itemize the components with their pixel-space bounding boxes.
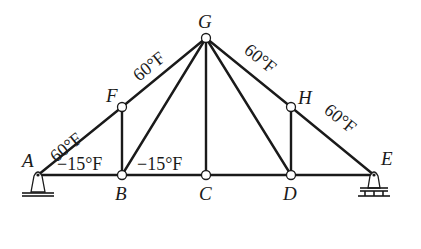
temp-HE: 60°F xyxy=(320,100,360,138)
truss-canvas: A B C D E F G H 60°F 60°F 60°F 60°F −15°… xyxy=(0,0,421,249)
temp-AB: −15°F xyxy=(57,154,102,174)
label-A: A xyxy=(20,150,34,171)
joint-B xyxy=(118,171,127,180)
label-D: D xyxy=(282,183,297,204)
temperature-labels: 60°F 60°F 60°F 60°F −15°F −15°F xyxy=(46,40,361,174)
label-C: C xyxy=(199,183,212,204)
label-B: B xyxy=(115,183,127,204)
label-F: F xyxy=(105,85,118,106)
joint-C xyxy=(202,171,211,180)
joint-G xyxy=(202,34,211,43)
truss-diagram: A B C D E F G H 60°F 60°F 60°F 60°F −15°… xyxy=(0,0,421,249)
joint-H xyxy=(287,103,296,112)
label-G: G xyxy=(198,11,212,32)
label-H: H xyxy=(297,87,313,108)
temp-BC: −15°F xyxy=(137,154,182,174)
joint-F xyxy=(118,103,127,112)
label-E: E xyxy=(380,148,393,169)
joint-D xyxy=(287,171,296,180)
temp-FG: 60°F xyxy=(129,47,169,85)
